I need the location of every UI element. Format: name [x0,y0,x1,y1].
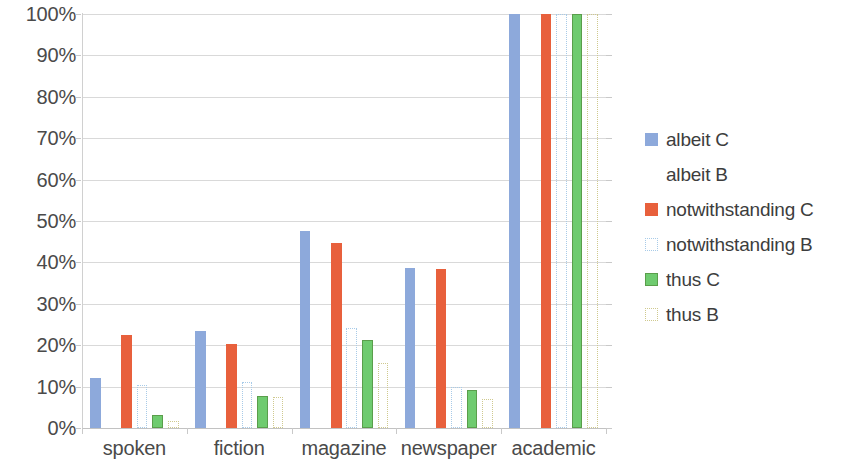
y-axis-tick [76,55,81,56]
bar-chart: 100%90%80%70%60%50%40%30%20%10%0% spoken… [0,0,841,469]
x-axis-label-academic: academic [501,436,606,460]
y-axis-tick-label: 30% [4,294,76,314]
y-axis-line [82,13,83,429]
bar [90,378,101,428]
x-axis-tick [187,428,188,434]
bar [226,344,237,428]
y-axis-labels: 100%90%80%70%60%50%40%30%20%10%0% [0,14,76,428]
y-axis-tick-label: 50% [4,211,76,231]
legend-swatch-icon [645,238,658,251]
bar [121,335,132,428]
legend-swatch-icon [645,133,658,146]
legend-label: thus B [666,305,719,324]
y-axis-tick-right [606,180,612,181]
gridline [82,14,606,15]
legend-label: notwithstanding B [666,235,813,254]
y-axis-tick-right [606,221,612,222]
y-axis-tick-label: 70% [4,128,76,148]
x-axis-line [82,428,606,429]
y-axis-tick-label: 0% [4,418,76,438]
legend-item[interactable]: thus B [645,297,841,332]
x-axis-tick [606,428,607,434]
x-axis-label-fiction: fiction [187,436,292,460]
y-axis-tick-label: 60% [4,170,76,190]
bar [257,396,268,428]
y-axis-tick-right [606,97,612,98]
gridline [82,345,606,346]
bar [300,231,311,428]
legend-item[interactable]: albeit C [645,122,841,157]
gridline [82,138,606,139]
legend-item[interactable]: notwithstanding C [645,192,841,227]
bar [362,340,373,428]
gridline [82,55,606,56]
x-axis-label-spoken: spoken [82,436,187,460]
y-axis-tick [76,304,81,305]
y-axis-tick [76,262,81,263]
y-axis-tick [76,97,81,98]
x-axis-labels: spokenfictionmagazinenewspaperacademic [82,436,606,466]
y-axis-tick-label: 40% [4,252,76,272]
legend-label: thus C [666,270,720,289]
y-axis-tick [76,180,81,181]
x-axis-tick [396,428,397,434]
y-axis-tick-label: 90% [4,45,76,65]
legend-swatch-icon [645,273,658,286]
legend-label: albeit C [666,130,729,149]
y-axis-tick-right [606,55,612,56]
y-axis-tick [76,138,81,139]
gridline [82,387,606,388]
y-axis-tick-label: 100% [4,4,76,24]
y-axis-tick-right [606,304,612,305]
bar [405,268,416,428]
y-axis-tick-right [606,14,612,15]
bar [587,14,598,428]
bar [467,390,478,428]
y-axis-tick [76,14,81,15]
gridline [82,262,606,263]
x-axis-label-magazine: magazine [292,436,397,460]
x-axis-label-newspaper: newspaper [396,436,501,460]
legend-item[interactable]: albeit B [645,157,841,192]
y-axis-tick-label: 20% [4,335,76,355]
gridline [82,304,606,305]
legend-label: notwithstanding C [666,200,814,219]
legend-label: albeit B [666,165,728,184]
y-axis-tick-label: 10% [4,377,76,397]
legend-item[interactable]: thus C [645,262,841,297]
bar [195,331,206,428]
y-axis-tick [76,221,81,222]
y-axis-tick-right [606,262,612,263]
x-axis-tick [292,428,293,434]
legend-swatch-icon [645,168,658,181]
bar [451,387,462,428]
bar [509,14,520,428]
y-axis-tick [76,428,81,429]
y-axis-tick [76,345,81,346]
bar [541,14,552,428]
gridline [82,97,606,98]
legend-item[interactable]: notwithstanding B [645,227,841,262]
bar [331,243,342,428]
legend-swatch-icon [645,203,658,216]
x-axis-tick [501,428,502,434]
plot-area [82,14,606,428]
bar [346,328,357,428]
bar [168,421,179,428]
bar [242,382,253,428]
gridline [82,221,606,222]
y-axis-tick-right [606,345,612,346]
bar [378,363,389,428]
y-axis-tick-right [606,387,612,388]
bar [572,14,583,428]
bar [482,399,493,428]
bar [137,385,148,428]
y-axis-tick [76,387,81,388]
gridline [82,180,606,181]
bar [152,415,163,428]
y-axis-tick-right [606,138,612,139]
bar [273,397,284,428]
bar [556,14,567,428]
legend-swatch-icon [645,308,658,321]
y-axis-tick-label: 80% [4,87,76,107]
